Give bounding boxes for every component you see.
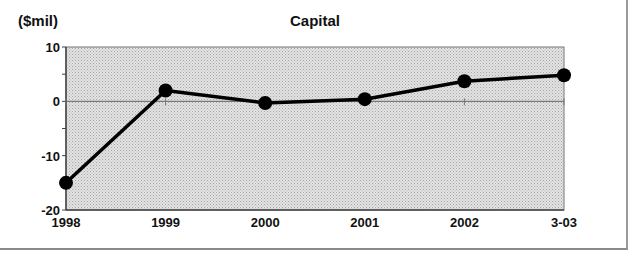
x-tick-label: 3-03: [551, 215, 577, 230]
data-point-marker: [159, 83, 173, 97]
x-tick-label: 1999: [151, 215, 180, 230]
data-point-marker: [59, 176, 73, 190]
y-tick-label: 0: [53, 94, 60, 109]
y-tick-label: 10: [46, 40, 60, 55]
data-point-marker: [258, 96, 272, 110]
line-chart: 100-10-20 199819992000200120023-03: [0, 0, 630, 256]
y-tick-label: -10: [41, 149, 60, 164]
x-tick-label: 2000: [251, 215, 280, 230]
x-tick-label: 2002: [450, 215, 479, 230]
y-axis: 100-10-20: [41, 40, 66, 218]
data-point-marker: [557, 68, 571, 82]
plot-area: [66, 47, 564, 210]
x-tick-label: 1998: [52, 215, 81, 230]
x-tick-label: 2001: [350, 215, 379, 230]
data-point-marker: [457, 74, 471, 88]
data-point-marker: [358, 92, 372, 106]
